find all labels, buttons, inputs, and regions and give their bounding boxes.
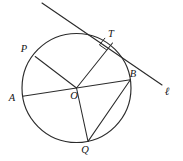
segment-op-radius — [35, 57, 76, 89]
point-label-b: B — [130, 68, 137, 79]
tangent-line-label: ℓ — [165, 85, 170, 97]
geometry-figure: O A B P T Q ℓ — [0, 0, 183, 161]
point-label-p: P — [20, 43, 28, 54]
point-label-a: A — [8, 92, 16, 103]
segment-ot-radius — [77, 43, 113, 88]
tangent-line — [42, 3, 162, 85]
geometry-canvas: O A B P T Q ℓ — [0, 0, 183, 161]
point-label-q: Q — [81, 144, 89, 155]
segment-oq-radius — [77, 88, 89, 141]
point-label-o: O — [70, 90, 78, 101]
point-label-t: T — [108, 28, 115, 39]
